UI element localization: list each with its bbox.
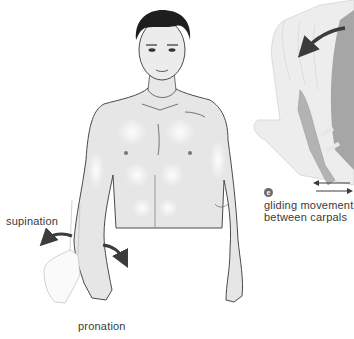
badge-e: e: [264, 188, 273, 197]
hand-gliding-illustration: [254, 0, 354, 191]
label-gliding-line2: between carpals: [264, 211, 347, 224]
label-supination: supination: [6, 215, 58, 228]
anatomy-diagram: supination pronation e gliding movement …: [0, 0, 354, 339]
label-pronation: pronation: [78, 320, 126, 333]
human-figure: [44, 10, 243, 303]
